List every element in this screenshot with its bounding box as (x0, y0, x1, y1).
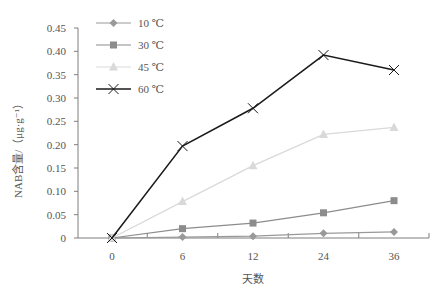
diamond-marker (390, 228, 398, 236)
series-10C (108, 228, 398, 242)
series-60C (107, 50, 399, 243)
x-marker (248, 103, 258, 113)
y-tick-label: 0.25 (47, 115, 67, 127)
y-tick-label: 0.20 (47, 139, 67, 151)
diamond-marker (249, 232, 257, 240)
legend-label: 60 ℃ (138, 83, 164, 95)
square-marker (320, 209, 327, 216)
legend-label: 10 ℃ (138, 17, 164, 29)
square-marker (110, 42, 117, 49)
legend-item: 45 ℃ (96, 61, 164, 73)
y-axis: 00.050.100.150.200.250.300.350.400.45 (47, 22, 78, 244)
legend: 10 ℃30 ℃45 ℃60 ℃ (96, 17, 164, 95)
x-tick-label: 36 (389, 250, 401, 262)
y-tick-label: 0.05 (47, 209, 67, 221)
y-tick-label: 0.10 (47, 185, 67, 197)
x-tick-label: 12 (248, 250, 259, 262)
x-tick-label: 6 (180, 250, 186, 262)
x-tick-label: 24 (318, 250, 330, 262)
data-series (107, 50, 399, 243)
x-tick-label: 0 (109, 250, 115, 262)
legend-item: 60 ℃ (96, 83, 164, 95)
triangle-marker (109, 62, 118, 71)
x-axis-title: 天数 (242, 273, 264, 285)
diamond-marker (110, 19, 118, 27)
triangle-marker (178, 197, 187, 206)
diamond-marker (320, 229, 328, 237)
y-tick-label: 0.35 (47, 69, 67, 81)
square-marker (391, 197, 398, 204)
triangle-marker (390, 122, 399, 130)
legend-item: 30 ℃ (96, 39, 164, 51)
x-marker (178, 141, 188, 151)
y-tick-label: 0.40 (47, 45, 67, 57)
y-tick-label: 0.30 (47, 92, 67, 104)
legend-item: 10 ℃ (96, 17, 164, 29)
square-marker (179, 225, 186, 232)
line-chart: 00.050.100.150.200.250.300.350.400.45 06… (0, 0, 444, 299)
legend-label: 30 ℃ (138, 39, 164, 51)
y-tick-label: 0.15 (47, 162, 67, 174)
square-marker (250, 220, 257, 227)
y-tick-label: 0 (61, 232, 67, 244)
diamond-marker (179, 233, 187, 241)
y-tick-label: 0.45 (47, 22, 67, 34)
y-axis-title: NAB含量/（μg·g⁻¹） (11, 98, 24, 198)
legend-label: 45 ℃ (138, 61, 164, 73)
